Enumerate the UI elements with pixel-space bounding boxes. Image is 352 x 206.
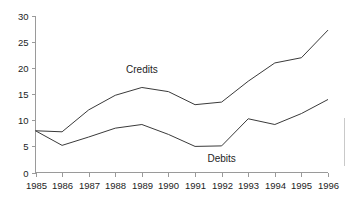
- x-tick-label: 1986: [52, 180, 73, 191]
- series-line-debits: [36, 99, 329, 146]
- x-tick-label: 1985: [26, 180, 47, 191]
- x-tick-label: 1990: [158, 180, 179, 191]
- x-tick-label: 1989: [132, 180, 153, 191]
- y-tick-label: 25: [18, 37, 29, 48]
- series-label-group: CreditsDebits: [126, 64, 236, 163]
- x-tick-label: 1988: [105, 180, 126, 191]
- series-line-credits: [36, 30, 329, 132]
- y-tick-label: 30: [18, 11, 29, 22]
- x-tick-label: 1992: [212, 180, 233, 191]
- y-tick-group: [32, 17, 36, 174]
- line-chart: 051015202530 198519861987198819891990199…: [0, 0, 352, 206]
- chart-canvas: 051015202530 198519861987198819891990199…: [0, 0, 352, 206]
- y-tick-label-group: 051015202530: [18, 11, 29, 179]
- series-line-group: [36, 30, 329, 146]
- y-tick-label: 20: [18, 63, 29, 74]
- x-tick-label: 1991: [185, 180, 206, 191]
- x-tick-label: 1987: [79, 180, 100, 191]
- x-tick-label: 1995: [291, 180, 312, 191]
- x-tick-label: 1996: [318, 180, 339, 191]
- x-tick-label: 1993: [238, 180, 259, 191]
- x-tick-label-group: 1985198619871988198919901991199219931994…: [26, 180, 339, 191]
- y-tick-label: 15: [18, 89, 29, 100]
- y-tick-label: 10: [18, 115, 29, 126]
- y-tick-label: 0: [23, 168, 28, 179]
- x-tick-group: [37, 173, 329, 177]
- x-tick-label: 1994: [265, 180, 286, 191]
- series-label-credits: Credits: [126, 64, 158, 75]
- series-label-debits: Debits: [207, 153, 235, 164]
- y-tick-label: 5: [23, 141, 28, 152]
